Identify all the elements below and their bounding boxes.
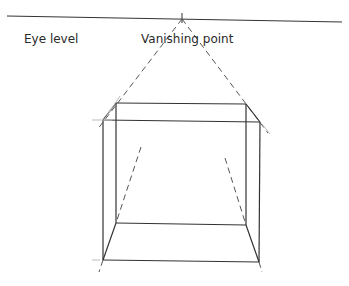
front-top-edge xyxy=(103,120,260,122)
back-bottom-edge xyxy=(116,223,246,225)
below-right-dashed-line xyxy=(259,262,262,272)
back-top-edge xyxy=(116,103,246,104)
connect-bottom-left-edge xyxy=(103,223,116,260)
right-extend-tick xyxy=(262,124,270,134)
below-left-dashed-line xyxy=(99,260,103,272)
front-bottom-edge xyxy=(103,260,259,262)
inner-right-dashed-line xyxy=(225,158,246,225)
eye-level-label: Eye level xyxy=(24,33,78,45)
connect-bottom-right-edge xyxy=(246,225,259,262)
left-extend-tick xyxy=(104,96,120,120)
guide-lines xyxy=(97,19,268,272)
vanishing-point-label: Vanishing point xyxy=(141,33,233,45)
inner-left-dashed-line xyxy=(116,147,141,223)
box-outline xyxy=(103,103,260,262)
connect-top-right-edge xyxy=(246,104,260,122)
horizon-line xyxy=(7,16,342,22)
front-right-edge xyxy=(259,122,260,262)
